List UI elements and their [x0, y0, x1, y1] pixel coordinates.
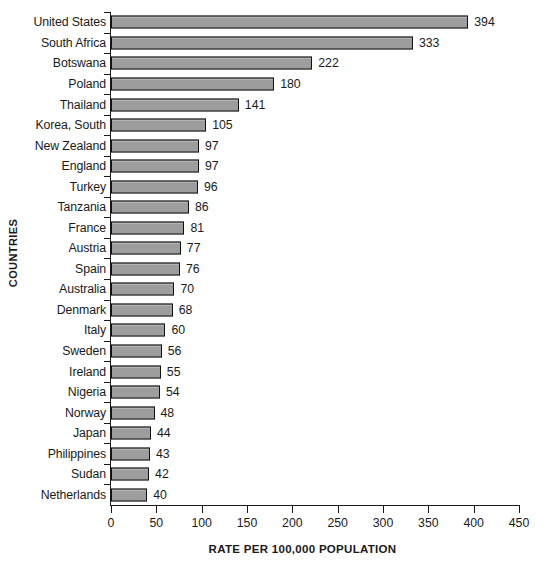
bar-value-label: 42: [155, 468, 169, 481]
bar-value-label: 394: [474, 16, 495, 29]
bar-group: 105: [111, 119, 233, 132]
bar-group: 70: [111, 283, 194, 296]
category-label: Nigeria: [18, 386, 106, 399]
bar: [111, 365, 161, 378]
bar-value-label: 44: [157, 427, 171, 440]
bar-row: England97: [0, 156, 550, 177]
bar-group: 97: [111, 139, 219, 152]
bar: [111, 242, 181, 255]
bar-value-label: 222: [318, 57, 339, 70]
bar: [111, 78, 274, 91]
bar-row: Sudan42: [0, 464, 550, 485]
x-axis-tick: [111, 505, 112, 513]
bar-row: Thailand141: [0, 94, 550, 115]
bar-value-label: 97: [205, 139, 219, 152]
bar-value-label: 96: [204, 180, 218, 193]
bar-value-label: 333: [419, 36, 440, 49]
bar-row: Spain76: [0, 258, 550, 279]
bar: [111, 119, 206, 132]
category-label: Korea, South: [18, 119, 106, 132]
category-label: Norway: [18, 406, 106, 419]
bar-row: Norway48: [0, 402, 550, 423]
bar-value-label: 48: [161, 406, 175, 419]
x-axis-tick-label: 400: [449, 516, 499, 530]
bar-group: 333: [111, 36, 439, 49]
category-label: Italy: [18, 324, 106, 337]
category-label: Tanzania: [18, 201, 106, 214]
x-axis-title: RATE PER 100,000 POPULATION: [0, 543, 550, 555]
bar-group: 97: [111, 160, 219, 173]
bar-value-label: 77: [187, 242, 201, 255]
bar-group: 76: [111, 262, 200, 275]
x-axis-tick: [428, 505, 429, 513]
x-axis-tick: [202, 505, 203, 513]
category-label: France: [18, 221, 106, 234]
bar-value-label: 70: [180, 283, 194, 296]
bar-row: Netherlands40: [0, 484, 550, 505]
bar-row: Botswana222: [0, 53, 550, 74]
bar-group: 60: [111, 324, 185, 337]
category-label: Poland: [18, 78, 106, 91]
bar: [111, 221, 184, 234]
bar-group: 180: [111, 78, 301, 91]
bar: [111, 468, 149, 481]
bar-group: 394: [111, 16, 495, 29]
bar-group: 77: [111, 242, 201, 255]
x-axis-tick-label: 100: [177, 516, 227, 530]
category-label: Denmark: [18, 303, 106, 316]
category-label: Japan: [18, 427, 106, 440]
bar: [111, 324, 165, 337]
bar-value-label: 68: [179, 303, 193, 316]
bar: [111, 447, 150, 460]
bar: [111, 262, 180, 275]
x-axis-tick-label: 50: [131, 516, 181, 530]
category-label: Austria: [18, 242, 106, 255]
bar: [111, 160, 199, 173]
bar-row: France81: [0, 217, 550, 238]
bar: [111, 303, 173, 316]
bar-row: Turkey96: [0, 176, 550, 197]
bar-group: 44: [111, 427, 171, 440]
category-label: England: [18, 160, 106, 173]
bar-group: 56: [111, 345, 181, 358]
x-axis-tick: [156, 505, 157, 513]
category-label: Ireland: [18, 365, 106, 378]
x-axis-tick: [474, 505, 475, 513]
bar-value-label: 180: [280, 78, 301, 91]
bar-group: 96: [111, 180, 218, 193]
category-label: New Zealand: [18, 139, 106, 152]
bar-group: 43: [111, 447, 170, 460]
x-axis-tick: [338, 505, 339, 513]
bar: [111, 98, 239, 111]
bar: [111, 283, 174, 296]
bar-group: 55: [111, 365, 181, 378]
bar-row: Italy60: [0, 320, 550, 341]
bar-value-label: 56: [168, 345, 182, 358]
bar-row: Philippines43: [0, 443, 550, 464]
x-axis-tick: [383, 505, 384, 513]
bar: [111, 36, 413, 49]
bar-row: Sweden56: [0, 341, 550, 362]
bar-value-label: 141: [245, 98, 266, 111]
bar-row: Korea, South105: [0, 115, 550, 136]
bar-group: 141: [111, 98, 265, 111]
bar-value-label: 105: [212, 119, 233, 132]
bar-value-label: 60: [171, 324, 185, 337]
bar-value-label: 40: [153, 488, 167, 501]
bar-row: Japan44: [0, 423, 550, 444]
x-axis-tick-label: 350: [403, 516, 453, 530]
bar-row: Denmark68: [0, 300, 550, 321]
bar-chart: COUNTRIES United States394South Africa33…: [0, 0, 550, 579]
category-label: Thailand: [18, 98, 106, 111]
bar-row: Ireland55: [0, 361, 550, 382]
bar-group: 54: [111, 386, 180, 399]
x-axis-tick: [247, 505, 248, 513]
category-label: United States: [18, 16, 106, 29]
category-label: Spain: [18, 262, 106, 275]
bar-group: 48: [111, 406, 174, 419]
plot-area: United States394South Africa333Botswana2…: [0, 0, 550, 505]
category-label: Sweden: [18, 345, 106, 358]
y-axis-line: [110, 12, 111, 505]
bar: [111, 16, 468, 29]
bar: [111, 57, 312, 70]
